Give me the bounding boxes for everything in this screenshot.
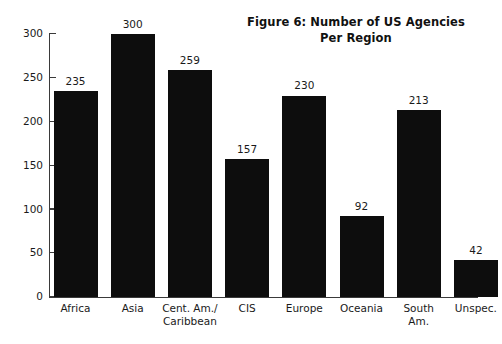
bar [454, 260, 498, 297]
y-axis-tick-label: 100 [15, 204, 43, 215]
y-axis-tick-mark [49, 33, 56, 34]
bar [340, 216, 384, 297]
bar [168, 70, 212, 297]
bar-value-label: 300 [103, 19, 163, 30]
bar [111, 34, 155, 297]
x-axis-category-label: Unspec. [441, 302, 502, 315]
bar [282, 96, 326, 297]
chart-title: Figure 6: Number of US Agencies Per Regi… [222, 14, 490, 46]
bar-value-label: 92 [332, 201, 392, 212]
y-axis-tick-label: 50 [15, 247, 43, 258]
y-axis-tick-label: 200 [15, 116, 43, 127]
bar [225, 159, 269, 297]
y-axis-tick-label: 250 [15, 72, 43, 83]
bar-value-label: 42 [446, 245, 502, 256]
y-axis-tick-label: 300 [15, 28, 43, 39]
bar-value-label: 157 [217, 144, 277, 155]
y-axis-tick-label: 150 [15, 160, 43, 171]
y-axis-tick-label: 0 [15, 291, 43, 302]
bar-value-label: 259 [160, 55, 220, 66]
bar [397, 110, 441, 297]
bar [54, 91, 98, 297]
bar-value-label: 213 [389, 95, 449, 106]
bar-value-label: 235 [46, 76, 106, 87]
bar-value-label: 230 [274, 80, 334, 91]
